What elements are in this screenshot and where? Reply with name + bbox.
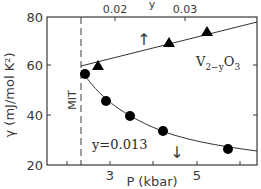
- data-point-circle: [80, 69, 90, 79]
- data-point-circle: [223, 144, 233, 154]
- data-point-triangle: [163, 37, 175, 47]
- y-tick-40: 40: [26, 108, 43, 123]
- y-axis-title: γ (mJ/mol K²): [2, 53, 17, 138]
- x-tick-5: 5: [193, 168, 201, 183]
- arrow-up-icon: ↑: [137, 30, 150, 49]
- data-point-circle: [101, 96, 111, 106]
- top-tick-002: 0.02: [103, 3, 128, 16]
- y-tick-60: 60: [26, 58, 43, 73]
- composition-label: y=0.013: [91, 137, 147, 152]
- y-tick-80: 80: [26, 10, 43, 25]
- compound-label: V2−yO3: [195, 54, 240, 72]
- top-tick-003: 0.03: [173, 3, 198, 16]
- mit-label: MIT: [66, 90, 79, 110]
- y-tick-20: 20: [26, 158, 43, 173]
- top-axis-title: y: [149, 0, 156, 11]
- data-point-triangle: [201, 26, 213, 36]
- data-point-circle: [158, 126, 168, 136]
- data-point-circle: [125, 111, 135, 121]
- x-tick-3: 3: [106, 168, 114, 183]
- gamma-vs-pressure-chart: 80 60 40 20 3 5 0.02 0.03 y P (kbar) γ (…: [0, 0, 261, 189]
- arrow-down-icon: ↓: [170, 143, 183, 162]
- x-axis-ticks: [67, 161, 240, 165]
- data-point-triangle: [92, 60, 104, 70]
- x-axis-title: P (kbar): [126, 174, 177, 189]
